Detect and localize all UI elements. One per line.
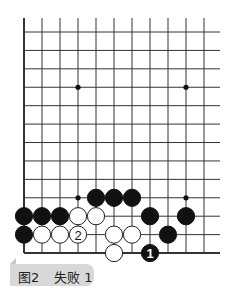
figure-label: 失败 1 — [54, 267, 92, 286]
black-stone — [177, 208, 194, 225]
white-stone — [123, 226, 140, 243]
white-stone — [33, 226, 50, 243]
white-stone — [51, 226, 68, 243]
star-point — [75, 195, 80, 200]
figure-number: 图2 — [18, 267, 39, 286]
move-number-label: 1 — [146, 246, 153, 261]
white-stone — [69, 208, 86, 225]
black-stone — [105, 189, 122, 206]
black-stone — [159, 226, 176, 243]
move-number-label: 2 — [74, 228, 81, 243]
black-stone — [141, 208, 158, 225]
figure-caption: 图2 失败 1 — [10, 264, 94, 286]
black-stone — [15, 226, 32, 243]
black-stone — [123, 189, 140, 206]
black-stone — [51, 208, 68, 225]
go-board: 21 — [0, 0, 240, 262]
white-stone — [87, 208, 104, 225]
star-point — [183, 85, 188, 90]
white-stone — [105, 226, 122, 243]
black-stone — [87, 189, 104, 206]
black-stone — [33, 208, 50, 225]
star-point — [75, 85, 80, 90]
star-point — [183, 195, 188, 200]
black-stone — [15, 208, 32, 225]
white-stone — [105, 244, 122, 261]
